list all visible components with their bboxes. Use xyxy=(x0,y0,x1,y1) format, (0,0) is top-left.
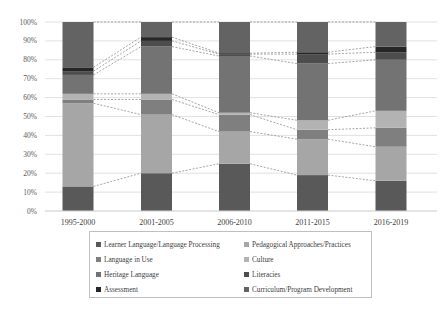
bar-segment xyxy=(297,22,328,52)
y-tick-label: 100% xyxy=(20,18,38,27)
bar-stack-2006-2010 xyxy=(219,22,250,211)
bar-segment xyxy=(63,103,94,186)
bar-segment xyxy=(376,181,407,211)
bar-stack-1995-2000 xyxy=(63,22,94,211)
y-tick-label: 30% xyxy=(23,150,37,159)
legend-label: Language in Use xyxy=(104,256,153,264)
bar-segment xyxy=(219,132,250,164)
series-connector xyxy=(328,111,376,120)
legend-item: Language in Use xyxy=(96,252,244,267)
series-connector xyxy=(328,139,376,147)
bar-segment xyxy=(63,94,94,100)
legend-swatch-icon xyxy=(96,272,101,277)
x-tick-label: 1995-2000 xyxy=(61,218,96,227)
bar-segment xyxy=(219,56,250,113)
bar-segment xyxy=(63,67,94,71)
bar-segment xyxy=(141,22,172,37)
legend-label: Heritage Language xyxy=(104,271,159,279)
bar-segment xyxy=(376,147,407,181)
series-connector xyxy=(94,173,142,186)
series-connector xyxy=(328,52,376,54)
y-tick-label: 20% xyxy=(23,169,37,178)
series-connector xyxy=(172,47,219,56)
x-tick-label: 2011-2015 xyxy=(295,218,329,227)
bar-segment xyxy=(63,186,94,211)
y-tick-label: 10% xyxy=(23,188,37,197)
y-tick-label: 0% xyxy=(27,207,37,216)
bar-segment xyxy=(63,99,94,103)
bar-segment xyxy=(219,22,250,53)
legend-swatch-icon xyxy=(244,287,249,292)
y-tick-label: 40% xyxy=(23,131,37,140)
bar-segment xyxy=(219,115,250,132)
bar-stack-2001-2005 xyxy=(141,22,172,211)
legend-swatch-icon xyxy=(244,272,249,277)
x-tick-label: 2016-2019 xyxy=(374,218,409,227)
bar-segment xyxy=(297,139,328,175)
series-connector xyxy=(250,52,297,53)
x-axis: 1995-20002001-20052006-20102011-20152016… xyxy=(45,211,437,227)
legend-label: Literacies xyxy=(252,271,280,279)
bar-segment xyxy=(141,99,172,114)
chart-legend: Learner Language/Language ProcessingPeda… xyxy=(89,231,372,298)
series-connector xyxy=(172,94,219,113)
legend-label: Pedagogical Approaches/Practices xyxy=(252,241,351,249)
y-tick-label: 80% xyxy=(23,55,37,64)
bar-segment xyxy=(376,47,407,53)
bar-segment xyxy=(376,52,407,60)
legend-item: Pedagogical Approaches/Practices xyxy=(244,237,374,252)
legend-item: Assessment xyxy=(96,282,244,297)
legend-label: Curriculum/Program Development xyxy=(252,286,352,294)
y-tick-label: 50% xyxy=(23,112,37,121)
bar-segment xyxy=(219,54,250,56)
series-connector xyxy=(172,99,219,114)
bar-segment xyxy=(141,94,172,100)
bar-segment xyxy=(63,75,94,94)
bar-segment xyxy=(297,54,328,63)
bar-segment xyxy=(141,115,172,174)
y-tick-label: 70% xyxy=(23,74,37,83)
bar-segment xyxy=(297,175,328,211)
legend-item: Heritage Language xyxy=(96,267,244,282)
bar-segment xyxy=(219,164,250,211)
series-connector xyxy=(172,41,219,54)
bar-segment xyxy=(141,173,172,211)
bar-segment xyxy=(297,130,328,139)
bar-stack-2016-2019 xyxy=(376,22,407,211)
series-connector xyxy=(172,115,219,132)
bar-segment xyxy=(376,22,407,47)
legend-label: Learner Language/Language Processing xyxy=(104,241,220,249)
legend-swatch-icon xyxy=(96,242,101,247)
bar-segment xyxy=(219,113,250,115)
series-connector xyxy=(94,47,142,75)
bar-segment xyxy=(63,71,94,75)
x-tick-label: 2006-2010 xyxy=(217,218,252,227)
legend-item: Learner Language/Language Processing xyxy=(96,237,244,252)
x-tick-label: 2001-2005 xyxy=(139,218,174,227)
series-connector xyxy=(172,37,219,53)
legend-swatch-icon xyxy=(244,257,249,262)
legend-label: Assessment xyxy=(104,286,138,294)
series-connector xyxy=(328,60,376,64)
series-connector xyxy=(328,47,376,53)
series-connector xyxy=(328,175,376,181)
bar-stack-2011-2015 xyxy=(297,22,328,211)
bar-segment xyxy=(297,52,328,54)
bar-segment xyxy=(141,47,172,94)
series-connector xyxy=(328,128,376,130)
legend-label: Culture xyxy=(252,256,274,264)
bar-segment xyxy=(297,64,328,121)
legend-item: Culture xyxy=(244,252,374,267)
legend-item: Curriculum/Program Development xyxy=(244,282,374,297)
bar-segment xyxy=(376,60,407,111)
bar-segment xyxy=(376,111,407,128)
y-tick-label: 60% xyxy=(23,93,37,102)
series-connector xyxy=(94,37,142,67)
legend-swatch-icon xyxy=(96,287,101,292)
bar-segment xyxy=(141,37,172,41)
bar-segment xyxy=(219,53,250,54)
series-connector xyxy=(172,164,219,173)
bar-segment xyxy=(376,128,407,147)
series-connector xyxy=(94,41,142,71)
y-axis: 0%10%20%30%40%50%60%70%80%90%100% xyxy=(20,18,38,216)
